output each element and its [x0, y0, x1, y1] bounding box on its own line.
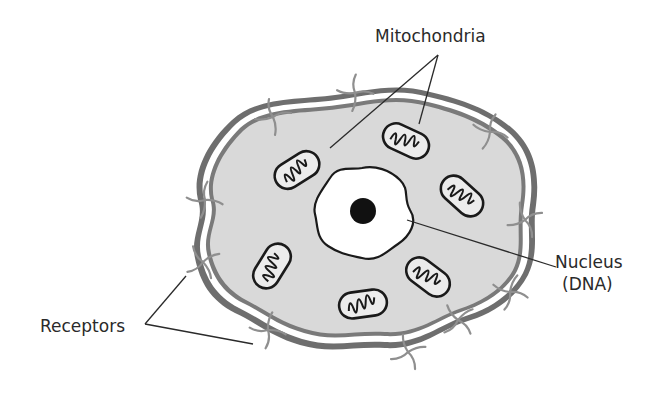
- nucleolus: [350, 198, 376, 224]
- receptors-leader-2: [145, 324, 253, 344]
- dna-label: (DNA): [562, 274, 613, 294]
- cell-diagram: Mitochondria Nucleus (DNA) Receptors: [0, 0, 672, 394]
- mitochondria-label: Mitochondria: [375, 26, 486, 46]
- nucleus-label: Nucleus: [555, 252, 623, 272]
- receptors-leader-1: [145, 276, 186, 324]
- receptors-label: Receptors: [40, 316, 125, 336]
